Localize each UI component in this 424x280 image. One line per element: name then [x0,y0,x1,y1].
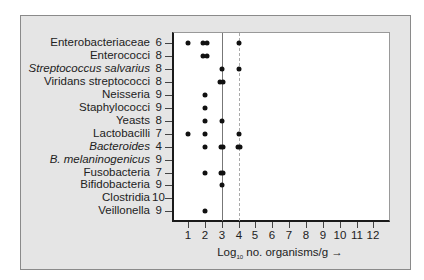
row-label: Fusobacteria [84,166,150,179]
data-point [236,66,241,71]
x-tick-label: 11 [351,229,363,241]
y-tick [165,147,172,148]
data-point [202,209,207,214]
data-point [219,183,224,188]
row-count: 8 [152,114,162,127]
y-tick [165,108,172,109]
y-tick [165,160,172,161]
row-count: 4 [152,140,162,153]
row-count: 9 [152,88,162,101]
data-point [202,118,207,123]
x-tick-label: 6 [269,229,275,241]
data-point [221,79,226,84]
x-tick-label: 5 [252,229,258,241]
y-tick [165,198,172,199]
x-tick-label: 7 [286,229,292,241]
row-label: Veillonella [98,204,150,217]
data-point [204,53,209,58]
data-point [204,41,209,46]
x-axis-title: Log10 no. organisms/g → [217,246,343,260]
row-label: B. melaninogenicus [50,153,150,166]
row-count: 9 [152,178,162,191]
x-tick-label: 1 [185,229,191,241]
x-tick [205,222,206,228]
row-label: Clostridia [102,191,150,204]
y-tick [165,185,172,186]
y-tick [165,82,172,83]
row-count: 9 [152,101,162,114]
data-point [219,118,224,123]
x-tick-label: 10 [334,229,347,241]
y-tick [165,43,172,44]
row-label: Enterococci [90,49,150,62]
y-tick [165,211,172,212]
y-tick [165,56,172,57]
x-tick-label: 4 [236,229,242,241]
data-point [202,92,207,97]
row-count: 6 [152,36,162,49]
x-axis-title-prefix: Log [217,246,236,258]
x-tick-label: 3 [219,229,225,241]
y-tick [165,69,172,70]
x-axis-title-suffix: no. organisms/g → [243,246,343,258]
row-count: 9 [152,153,162,166]
x-tick [188,222,189,228]
data-point [219,66,224,71]
x-tick [323,222,324,228]
row-label: Viridans streptococci [44,75,150,88]
x-tick [239,222,240,228]
row-label: Neisseria [102,88,150,101]
y-tick [165,95,172,96]
plot-area [172,32,390,222]
x-tick-label: 8 [303,229,309,241]
row-label: Bacteroides [89,140,150,153]
x-axis-title-subscript: 10 [236,254,243,260]
x-tick [222,222,223,228]
data-point [221,170,226,175]
y-tick [165,173,172,174]
y-tick [165,121,172,122]
row-count: 8 [152,49,162,62]
data-point [202,144,207,149]
x-tick [289,222,290,228]
row-label: Yeasts [116,114,150,127]
row-count: 8 [152,75,162,88]
data-point [186,41,191,46]
data-point [202,105,207,110]
x-tick [272,222,273,228]
row-count: 10 [152,191,162,204]
x-tick [357,222,358,228]
row-count: 8 [152,62,162,75]
data-point [186,131,191,136]
x-tick-label: 2 [202,229,208,241]
row-count: 7 [152,127,162,140]
row-label: Lactobacilli [93,127,150,140]
x-tick [373,222,374,228]
data-point [236,41,241,46]
reference-line-solid [222,33,223,221]
row-label: Enterobacteriaceae [50,36,150,49]
x-tick-label: 9 [320,229,326,241]
x-tick [340,222,341,228]
reference-line-dashed [239,33,240,221]
row-label: Bifidobacteria [80,178,150,191]
row-count: 7 [152,166,162,179]
row-label: Staphylococci [79,101,150,114]
data-point [236,131,241,136]
x-tick [306,222,307,228]
y-tick [165,134,172,135]
data-point [238,144,243,149]
row-count: 9 [152,204,162,217]
x-tick [255,222,256,228]
data-point [202,170,207,175]
data-point [221,144,226,149]
data-point [202,131,207,136]
x-tick-label: 12 [367,229,380,241]
row-label: Streptococcus salvarius [29,62,150,75]
